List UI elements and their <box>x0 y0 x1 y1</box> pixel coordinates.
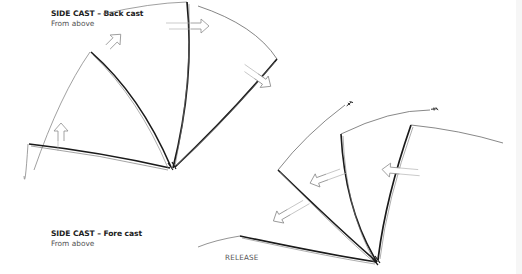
casting-diagram <box>0 0 522 274</box>
fly-icon <box>431 107 438 111</box>
release-line <box>198 236 240 247</box>
arrow-up-right-icon <box>103 29 126 52</box>
back-cast-diagram <box>24 2 277 179</box>
arrow-left-icon <box>270 195 312 227</box>
arrow-down-right-icon <box>239 61 275 92</box>
fly-line-arc <box>103 2 187 14</box>
rod-line-release <box>240 236 377 262</box>
rod-line-position-4 <box>175 59 277 167</box>
fly-line-fore-2 <box>341 110 430 134</box>
fly-line-arc <box>34 52 90 170</box>
rod-line-fore-1 <box>278 170 377 262</box>
fly-line-fore-3 <box>411 125 503 143</box>
rod-line-fore-2 <box>341 134 377 262</box>
fore-cast-diagram <box>198 100 503 265</box>
fly-line-fore-1 <box>278 105 345 170</box>
arrow-right-icon <box>166 19 209 33</box>
rod-line-position-1 <box>29 144 170 168</box>
rod-line-position-2 <box>91 52 171 167</box>
fly-icon <box>346 100 353 107</box>
fly-line-arc <box>198 6 277 59</box>
arrow-left-icon <box>381 162 420 179</box>
arrow-left-icon <box>308 164 348 190</box>
